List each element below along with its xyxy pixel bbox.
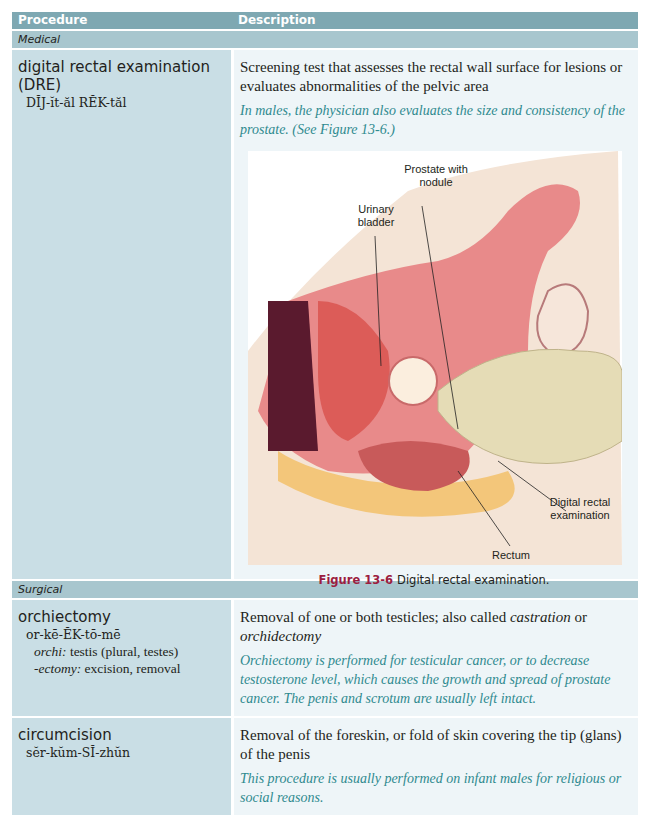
table-row-orchiectomy: orchiectomy or-kē-ĔK-tō-mē orchi: testis… — [12, 600, 638, 716]
word-part: orchi: testis (plural, testes) — [18, 643, 231, 660]
pronunciation: sĕr-kŭm-SĬ-zhŭn — [18, 744, 231, 761]
pronunciation: or-kē-ĔK-tō-mē — [18, 626, 231, 643]
word-part: -ectomy: excision, removal — [18, 660, 231, 677]
procedure-cell: circumcision sĕr-kŭm-SĬ-zhŭn — [12, 718, 231, 815]
label-digital-rectal-examination: Digital rectal examination — [538, 496, 622, 522]
pronunciation: DĬJ-ĭt-ăl RĔK-tăl — [18, 94, 231, 111]
clinical-note: Orchiectomy is performed for testicular … — [240, 651, 628, 708]
word-part-meaning: excision, removal — [85, 661, 181, 676]
description: Removal of the foreskin, or fold of skin… — [240, 726, 628, 764]
term: circumcision — [18, 726, 231, 744]
figure-illustration: Prostate with nodule Urinary bladder Dig… — [248, 151, 622, 565]
header-procedure: Procedure — [12, 12, 234, 29]
label-urinary-bladder: Urinary bladder — [348, 203, 404, 229]
word-part-term: -ectomy: — [34, 661, 81, 676]
table-row-dre: digital rectal examination (DRE) DĬJ-ĭt-… — [12, 50, 638, 579]
table-row-circumcision: circumcision sĕr-kŭm-SĬ-zhŭn Removal of … — [12, 718, 638, 815]
term: orchiectomy — [18, 608, 231, 626]
alt-term-orchidectomy: orchidectomy — [240, 628, 321, 644]
clinical-note: In males, the physician also evaluates t… — [240, 101, 628, 139]
alt-term-castration: castration — [510, 609, 571, 625]
description: Removal of one or both testicles; also c… — [240, 608, 628, 646]
description-text: or — [571, 609, 587, 625]
section-medical: Medical — [12, 31, 638, 48]
label-rectum: Rectum — [486, 549, 536, 562]
description: Screening test that assesses the rectal … — [240, 58, 628, 96]
description-text: Removal of one or both testicles; also c… — [240, 609, 510, 625]
word-part-term: orchi: — [34, 644, 67, 659]
figure-caption-text: Digital rectal examination. — [397, 573, 549, 587]
term: digital rectal examination (DRE) — [18, 58, 231, 94]
figure-number: Figure 13-6 — [319, 573, 393, 587]
description-cell: Removal of one or both testicles; also c… — [234, 600, 638, 716]
table-header: Procedure Description — [12, 12, 638, 29]
description-cell: Screening test that assesses the rectal … — [234, 50, 638, 579]
word-part-meaning: testis (plural, testes) — [70, 644, 178, 659]
procedures-table: Procedure Description Medical digital re… — [12, 12, 638, 815]
header-description: Description — [234, 12, 638, 29]
figure-caption: Figure 13-6Digital rectal examination. — [240, 573, 628, 587]
description-cell: Removal of the foreskin, or fold of skin… — [234, 718, 638, 815]
label-prostate: Prostate with nodule — [398, 163, 474, 189]
procedure-cell: orchiectomy or-kē-ĔK-tō-mē orchi: testis… — [12, 600, 231, 716]
clinical-note: This procedure is usually performed on i… — [240, 769, 628, 807]
procedure-cell: digital rectal examination (DRE) DĬJ-ĭt-… — [12, 50, 231, 579]
